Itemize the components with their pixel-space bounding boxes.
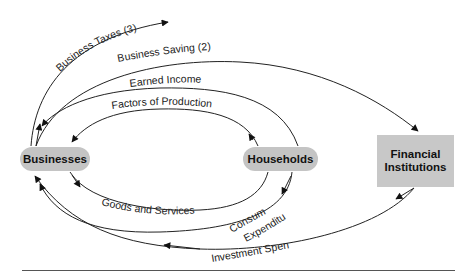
- financial-institutions-label: Financial Institutions: [385, 148, 447, 174]
- households-node: Households: [243, 147, 318, 171]
- businesses-node: Businesses: [20, 147, 90, 171]
- financial-label-line1: Financial: [391, 148, 441, 160]
- bottom-rule-divider: [22, 270, 455, 271]
- investment-spending-arrow: [35, 176, 414, 249]
- label-earned-income: Earned Income: [129, 73, 202, 89]
- businesses-label: Businesses: [23, 153, 87, 166]
- label-goods-and-services: Goods and Services: [101, 195, 195, 216]
- households-label: Households: [248, 153, 314, 166]
- business-saving-arrow: [36, 62, 418, 146]
- factors-of-production-arrow: [72, 109, 258, 146]
- financial-label-line2: Institutions: [385, 161, 447, 173]
- financial-institutions-node: Financial Institutions: [377, 135, 454, 187]
- label-business-taxes: Business Taxes (3): [53, 21, 137, 73]
- circular-flow-diagram: Business Taxes (3) Business Saving (2) E…: [0, 0, 463, 275]
- label-business-saving: Business Saving (2): [116, 40, 211, 64]
